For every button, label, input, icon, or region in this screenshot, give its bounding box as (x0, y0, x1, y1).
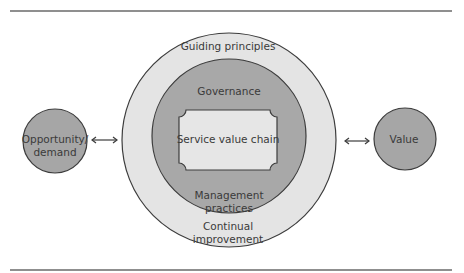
management-practices-line1: Management (194, 189, 263, 202)
management-practices-line2: practices (194, 202, 263, 215)
service-value-chain-label: Service value chain (177, 133, 280, 146)
continual-improvement-line1: Continual (193, 220, 263, 233)
guiding-principles-label: Guiding principles (181, 40, 276, 53)
opportunity-demand-label: Opportunity/ demand (22, 133, 89, 159)
opportunity-demand-line2: demand (22, 146, 89, 159)
bidirectional-arrow-right-icon (345, 138, 369, 144)
governance-label: Governance (197, 85, 260, 98)
bidirectional-arrow-left-icon (92, 137, 117, 143)
management-practices-label: Management practices (194, 189, 263, 215)
value-label: Value (390, 133, 419, 146)
continual-improvement-label: Continual improvement (193, 220, 263, 246)
opportunity-demand-line1: Opportunity/ (22, 133, 89, 146)
continual-improvement-line2: improvement (193, 233, 263, 246)
